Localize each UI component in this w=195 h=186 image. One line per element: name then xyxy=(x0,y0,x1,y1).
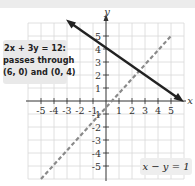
svg-text:-3: -3 xyxy=(92,135,101,146)
svg-text:-4: -4 xyxy=(92,148,101,159)
svg-text:-2: -2 xyxy=(92,122,101,133)
callout-line-2: passes through xyxy=(3,54,67,66)
svg-text:5: 5 xyxy=(95,31,101,42)
svg-text:3: 3 xyxy=(95,57,101,68)
svg-text:5: 5 xyxy=(168,105,174,116)
svg-text:-5: -5 xyxy=(92,161,101,172)
callout-line-1: 2x + 3y = 12: xyxy=(3,42,67,54)
svg-text:2: 2 xyxy=(95,70,101,81)
svg-text:-2: -2 xyxy=(75,105,84,116)
svg-text:2: 2 xyxy=(129,105,135,116)
svg-text:-1: -1 xyxy=(92,109,101,120)
svg-text:1: 1 xyxy=(95,83,101,94)
svg-text:1: 1 xyxy=(116,105,122,116)
svg-text:4: 4 xyxy=(95,44,101,55)
callout-line-3: (6, 0) and (0, 4) xyxy=(3,66,67,78)
y-axis-label: y xyxy=(103,6,110,17)
svg-text:-5: -5 xyxy=(36,105,45,116)
callout-box: 2x + 3y = 12: passes through (6, 0) and … xyxy=(3,40,67,84)
svg-text:-3: -3 xyxy=(62,105,71,116)
x-axis-label: x xyxy=(187,95,193,106)
svg-text:3: 3 xyxy=(142,105,148,116)
svg-text:-4: -4 xyxy=(49,105,58,116)
dashed-line-label: x − y = 1 xyxy=(140,158,192,175)
svg-text:4: 4 xyxy=(155,105,161,116)
